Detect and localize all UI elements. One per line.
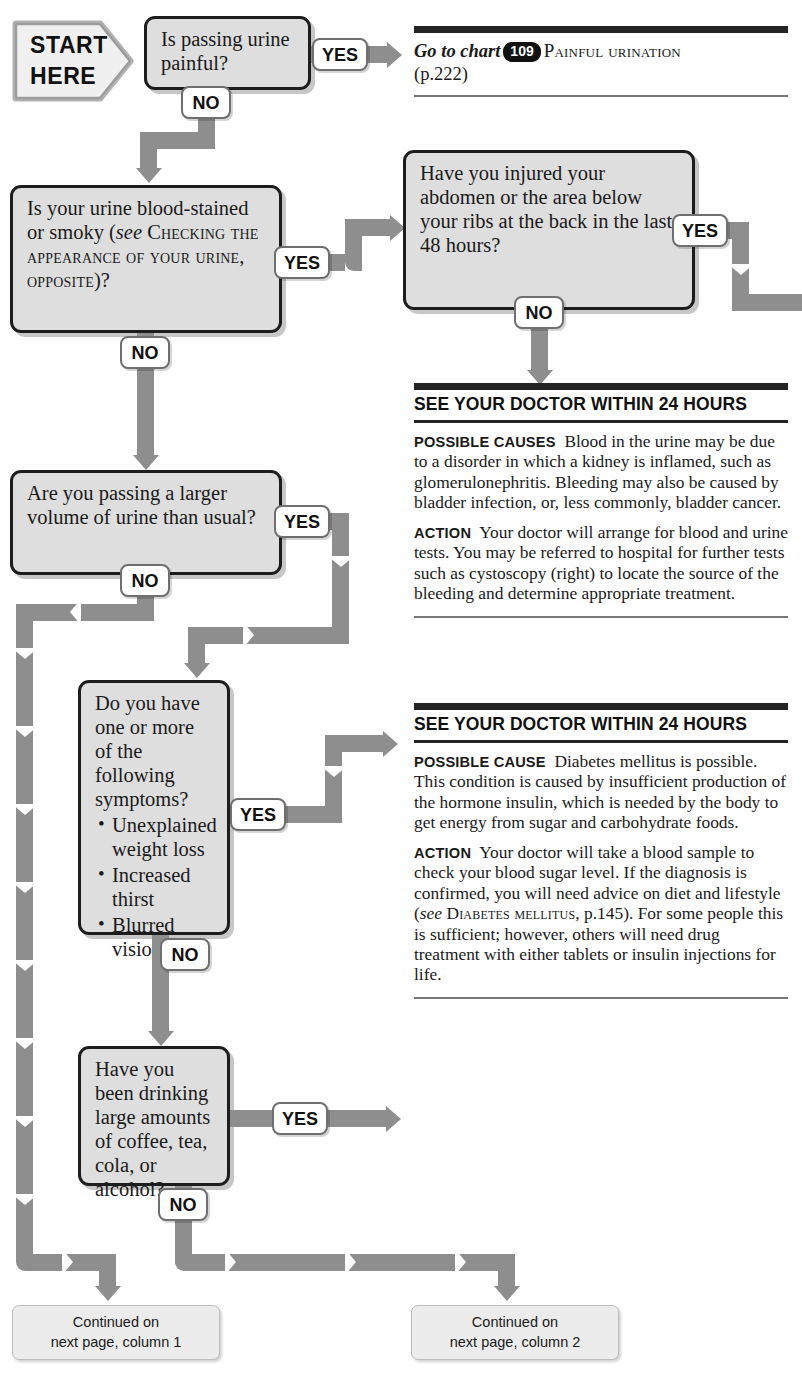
arrow-q3-yes-h2 <box>732 294 802 311</box>
continued-box-column-1[interactable]: Continued on next page, column 1 <box>12 1305 220 1360</box>
advice-block-1: SEE YOUR DOCTOR WITHIN 24 HOURS Possible… <box>414 383 788 618</box>
left-notch-5 <box>12 960 38 971</box>
arrow-q1-yes-head <box>387 42 402 68</box>
b1-action-text: Your doctor will arrange for blood and u… <box>414 522 788 603</box>
advice-block-2: SEE YOUR DOCTOR WITHIN 24 HOURS Possible… <box>414 703 788 999</box>
b2-heading: SEE YOUR DOCTOR WITHIN 24 HOURS <box>414 710 788 740</box>
arrow-q5-no-head <box>148 1031 174 1046</box>
arrow-q2-no-head <box>133 455 159 470</box>
arrow-q4-no-notch <box>70 599 81 625</box>
arrow-q1-no-head <box>136 168 162 183</box>
q5-text: Do you have one or more of the following… <box>95 692 214 812</box>
q5-bullet-1: Unexplained weight loss <box>112 814 214 862</box>
q4-yes-label[interactable]: YES <box>274 505 330 538</box>
arrow-q3-yes-notch <box>728 264 754 275</box>
arrow-q4-yes-head <box>184 663 210 678</box>
arrow-cont1-notch <box>62 1249 73 1275</box>
b2-action-ref: Diabetes mellitus <box>446 903 575 923</box>
b2-rule-under-heading <box>414 740 788 743</box>
arrow-cont2-v <box>498 1254 515 1288</box>
left-notch-4 <box>12 882 38 893</box>
q2-no-label[interactable]: NO <box>120 336 170 369</box>
q4-no-label[interactable]: NO <box>120 564 170 597</box>
arrow-cont2-notch-2 <box>345 1249 356 1275</box>
b1-rule-top <box>414 383 788 390</box>
question-box-q4: Are you passing a larger volume of urine… <box>10 470 282 575</box>
start-here-marker: START HERE <box>8 14 138 104</box>
question-box-q2: Is your urine blood-stained or smoky (se… <box>10 185 282 333</box>
question-box-q3: Have you injured your abdomen or the are… <box>403 150 695 310</box>
b2-cause-para: Possible cause Diabetes mellitus is poss… <box>414 751 788 833</box>
arrow-q4-yes-notch2 <box>243 622 254 648</box>
arrow-q4-no-h <box>16 604 154 621</box>
q5-bullet-2: Increased thirst <box>112 864 214 912</box>
q2-text: Is your urine blood-stained or smoky (se… <box>27 197 266 293</box>
left-notch-3 <box>12 804 38 815</box>
q6-text: Have you been drinking large amounts of … <box>95 1058 214 1202</box>
q1-no-label[interactable]: NO <box>181 86 231 119</box>
arrow-cont2-notch-1 <box>225 1249 236 1275</box>
continued-box-1-text: Continued on next page, column 1 <box>51 1313 182 1351</box>
q2-yes-label[interactable]: YES <box>274 246 330 279</box>
arrow-cont2-notch-3 <box>455 1249 466 1275</box>
arrow-q4-yes-h2 <box>188 627 349 644</box>
q3-yes-label[interactable]: YES <box>672 214 728 247</box>
b1-action-para: Action Your doctor will arrange for bloo… <box>414 522 788 604</box>
q3-text: Have you injured your abdomen or the are… <box>420 162 679 258</box>
q2-see: see <box>116 221 142 243</box>
goto-page: (p.222) <box>414 63 788 85</box>
flowchart-page: START HERE Is passing urine painful? YES… <box>0 0 802 1378</box>
arrow-q4-yes-v2 <box>188 627 205 665</box>
rule-top <box>414 26 788 33</box>
arrow-cont1-head <box>95 1286 121 1301</box>
continued-box-column-2[interactable]: Continued on next page, column 2 <box>411 1305 619 1360</box>
arrow-cont1-v <box>99 1254 116 1288</box>
continued-2-line-2: next page, column 2 <box>450 1333 581 1352</box>
question-box-q5: Do you have one or more of the following… <box>78 680 230 935</box>
question-box-q1: Is passing urine painful? <box>144 16 311 90</box>
q5-no-label[interactable]: NO <box>160 938 210 971</box>
q5-yes-label[interactable]: YES <box>230 798 286 831</box>
b1-heading: SEE YOUR DOCTOR WITHIN 24 HOURS <box>414 390 788 420</box>
goto-chart-line: Go to chart109Painful urination (p.222) <box>414 40 788 85</box>
continued-box-2-text: Continued on next page, column 2 <box>450 1313 581 1351</box>
arrow-q6-yes-head <box>386 1106 401 1132</box>
q3-no-label[interactable]: NO <box>514 296 564 329</box>
b1-cause-para: Possible causes Blood in the urine may b… <box>414 431 788 513</box>
b2-rule-bottom <box>414 997 788 999</box>
b1-action-lead: Action <box>414 525 471 541</box>
q4-text: Are you passing a larger volume of urine… <box>27 482 266 530</box>
continued-1-line-1: Continued on <box>51 1313 182 1332</box>
b1-rule-under-heading <box>414 420 788 423</box>
chart-number-badge: 109 <box>503 42 540 62</box>
goto-chart-title: Painful urination <box>544 40 681 61</box>
left-notch-2 <box>12 726 38 737</box>
arrow-q5-yes-notch <box>321 766 347 777</box>
continued-2-line-1: Continued on <box>450 1313 581 1332</box>
start-line-1: START <box>30 30 108 61</box>
b2-cause-lead: Possible cause <box>414 754 546 770</box>
q1-text: Is passing urine painful? <box>161 28 295 76</box>
arrow-q4-yes-notch <box>328 556 354 567</box>
rule-goto-bottom <box>414 95 788 97</box>
b2-action-lead: Action <box>414 845 471 861</box>
question-box-q6: Have you been drinking large amounts of … <box>78 1046 230 1186</box>
b2-action-page: , p.145 <box>575 903 623 923</box>
left-notch-8 <box>12 1194 38 1205</box>
q6-no-label[interactable]: NO <box>158 1188 208 1221</box>
left-notch-1 <box>12 648 38 659</box>
b1-cause-lead: Possible causes <box>414 434 556 450</box>
q2-text-b: )? <box>94 269 110 291</box>
b2-action-para: Action Your doctor will take a blood sam… <box>414 842 788 985</box>
arrow-q2-yes-h2 <box>345 219 390 236</box>
left-notch-6 <box>12 1038 38 1049</box>
start-here-label: START HERE <box>30 30 108 92</box>
arrow-q4-no-v2 <box>16 604 33 1254</box>
arrow-q5-yes-h2 <box>325 735 383 752</box>
left-notch-7 <box>12 1116 38 1127</box>
continued-1-line-2: next page, column 1 <box>51 1333 182 1352</box>
start-line-2: HERE <box>30 61 108 92</box>
q6-yes-label[interactable]: YES <box>272 1102 328 1135</box>
arrow-cont2-head <box>494 1286 520 1301</box>
q1-yes-label[interactable]: YES <box>312 38 368 71</box>
